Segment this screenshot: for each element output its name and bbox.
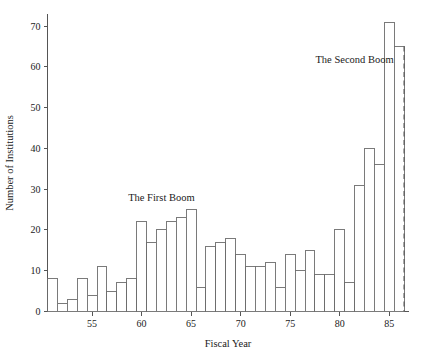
histogram-bars (48, 22, 405, 311)
y-tick-label: 30 (31, 184, 41, 195)
x-tick-label: 70 (236, 318, 246, 329)
histogram-bar (117, 283, 127, 312)
histogram-bar (355, 185, 365, 311)
y-tick-label: 20 (31, 224, 41, 235)
chart-annotation-label: The Second Boom (315, 54, 393, 65)
histogram-bar (67, 299, 77, 311)
histogram-bar (166, 222, 176, 312)
x-tick-label: 60 (137, 318, 147, 329)
histogram-bar (97, 267, 107, 312)
histogram-bar (206, 246, 216, 311)
histogram-bar (394, 47, 404, 312)
y-axis-ticks: 010203040506070 (31, 21, 48, 317)
x-axis-title: Fiscal Year (205, 338, 252, 349)
x-tick-label: 75 (285, 318, 295, 329)
histogram-bar (57, 303, 67, 311)
y-tick-label: 70 (31, 21, 41, 32)
histogram-bar (325, 275, 335, 312)
y-tick-label: 40 (31, 143, 41, 154)
histogram-bar (265, 263, 275, 312)
histogram-bar (275, 287, 285, 311)
chart-annotations: The First BoomThe Second Boom (128, 54, 393, 204)
histogram-bar (226, 238, 236, 311)
chart-canvas: 010203040506070 55606570758085 The First… (0, 0, 422, 358)
histogram-bar (255, 267, 265, 312)
y-tick-label: 50 (31, 102, 41, 113)
histogram-bar (335, 230, 345, 312)
histogram-bar (345, 283, 355, 312)
histogram-bar (196, 287, 206, 311)
histogram-bar (246, 267, 256, 312)
histogram-bar (384, 22, 394, 311)
histogram-bar (295, 271, 305, 312)
y-axis-title: Number of Institutions (4, 115, 15, 211)
histogram-bar (216, 242, 226, 311)
histogram-bar (305, 250, 315, 311)
histogram-bar (107, 291, 117, 311)
y-tick-label: 10 (31, 265, 41, 276)
histogram-bar (285, 254, 295, 311)
x-tick-label: 80 (335, 318, 345, 329)
histogram-bar (147, 242, 157, 311)
histogram-bar (315, 275, 325, 312)
histogram-bar (156, 230, 166, 312)
histogram-figure: 010203040506070 55606570758085 The First… (0, 0, 422, 358)
histogram-bar (137, 222, 147, 312)
y-tick-label: 60 (31, 61, 41, 72)
histogram-bar (77, 279, 87, 312)
histogram-bar (186, 210, 196, 312)
x-axis-ticks: 55606570758085 (87, 312, 394, 329)
x-tick-label: 65 (186, 318, 196, 329)
x-tick-label: 55 (87, 318, 97, 329)
histogram-bar (236, 254, 246, 311)
histogram-bar (48, 279, 58, 312)
histogram-bar (374, 165, 384, 312)
histogram-bar (87, 295, 97, 311)
y-tick-label: 0 (36, 306, 41, 317)
histogram-bar (364, 148, 374, 311)
x-tick-label: 85 (384, 318, 394, 329)
chart-annotation-label: The First Boom (128, 192, 195, 203)
histogram-bar (176, 218, 186, 312)
histogram-bar (127, 279, 137, 312)
